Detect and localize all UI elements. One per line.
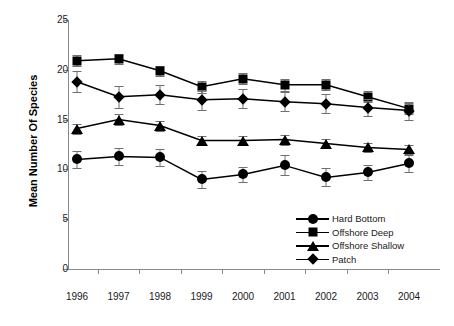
error-bar-cap: [363, 116, 372, 117]
legend-label: Patch: [329, 253, 356, 267]
error-bar-cap: [239, 182, 248, 183]
error-bar-cap: [322, 186, 331, 187]
error-bar-cap: [156, 76, 165, 77]
error-bar-cap: [73, 71, 82, 72]
error-bar-cap: [239, 84, 248, 85]
series-lines: [0, 0, 454, 326]
data-point-offshore-shallow: [403, 144, 415, 154]
data-point-hard-bottom: [321, 172, 331, 182]
legend-item-patch[interactable]: Patch: [296, 253, 404, 267]
error-bar-cap: [156, 166, 165, 167]
error-bar-cap: [280, 155, 289, 156]
error-bar-cap: [73, 92, 82, 93]
legend-label: Hard Bottom: [329, 212, 385, 226]
error-bar-cap: [363, 180, 372, 181]
error-bar-cap: [405, 120, 414, 121]
data-point-hard-bottom: [238, 169, 248, 179]
legend-label: Offshore Shallow: [329, 239, 404, 253]
error-bar-cap: [114, 125, 123, 126]
error-bar-cap: [322, 94, 331, 95]
data-point-offshore-deep: [280, 80, 289, 89]
data-point-offshore-shallow: [320, 139, 332, 149]
error-bar-cap: [197, 90, 206, 91]
data-point-offshore-deep: [322, 80, 331, 89]
error-bar-cap: [322, 113, 331, 114]
data-point-offshore-deep: [114, 54, 123, 63]
data-point-offshore-deep: [156, 66, 165, 75]
error-bar-cap: [405, 102, 414, 103]
error-bar-cap: [114, 108, 123, 109]
error-bar-cap: [239, 167, 248, 168]
data-point-offshore-shallow: [71, 124, 83, 134]
legend-diamond-icon: [296, 253, 329, 267]
error-bar-cap: [322, 148, 331, 149]
data-point-hard-bottom: [114, 151, 124, 161]
chart-container: Mean Number Of Species 0510152025 199619…: [0, 0, 454, 326]
data-point-hard-bottom: [155, 152, 165, 162]
error-bar-cap: [322, 168, 331, 169]
data-point-offshore-shallow: [113, 115, 125, 125]
chart-legend: Hard BottomOffshore DeepOffshore Shallow…: [296, 212, 404, 266]
error-bar-cap: [73, 66, 82, 67]
data-point-hard-bottom: [197, 174, 207, 184]
error-bar-cap: [156, 85, 165, 86]
series-layer: [0, 0, 454, 326]
legend-item-hard-bottom[interactable]: Hard Bottom: [296, 212, 404, 226]
data-point-hard-bottom: [404, 158, 414, 168]
error-bar-cap: [156, 104, 165, 105]
error-bar-cap: [114, 64, 123, 65]
data-point-offshore-shallow: [279, 135, 291, 145]
data-point-offshore-deep: [73, 56, 82, 65]
legend-item-offshore-shallow[interactable]: Offshore Shallow: [296, 239, 404, 253]
error-bar-cap: [197, 188, 206, 189]
error-bar-cap: [197, 171, 206, 172]
error-bar-cap: [73, 151, 82, 152]
error-bar-cap: [239, 89, 248, 90]
error-bar-cap: [197, 145, 206, 146]
error-bar-cap: [114, 148, 123, 149]
legend-triangle-icon: [296, 239, 329, 253]
error-bar-cap: [405, 154, 414, 155]
error-bar-cap: [405, 172, 414, 173]
error-bar-cap: [156, 149, 165, 150]
data-point-hard-bottom: [280, 160, 290, 170]
error-bar-cap: [239, 145, 248, 146]
data-point-offshore-shallow: [237, 136, 249, 146]
error-bar-cap: [156, 131, 165, 132]
error-bar-cap: [280, 175, 289, 176]
data-point-offshore-deep: [239, 74, 248, 83]
data-point-offshore-shallow: [196, 136, 208, 146]
error-bar-cap: [322, 90, 331, 91]
error-bar-cap: [280, 111, 289, 112]
error-bar-cap: [73, 134, 82, 135]
data-point-offshore-shallow: [154, 121, 166, 131]
data-point-hard-bottom: [72, 154, 82, 164]
error-bar-cap: [114, 86, 123, 87]
legend-label: Offshore Deep: [329, 226, 394, 240]
error-bar-cap: [280, 92, 289, 93]
error-bar-cap: [114, 165, 123, 166]
error-bar-cap: [197, 110, 206, 111]
legend-item-offshore-deep[interactable]: Offshore Deep: [296, 226, 404, 240]
legend-square-icon: [296, 226, 329, 240]
error-bar-cap: [363, 165, 372, 166]
error-bar-cap: [363, 99, 372, 100]
data-point-hard-bottom: [363, 167, 373, 177]
data-point-offshore-shallow: [362, 142, 374, 152]
error-bar-cap: [73, 168, 82, 169]
error-bar-cap: [239, 108, 248, 109]
error-bar-cap: [280, 145, 289, 146]
legend-circle-icon: [296, 212, 329, 226]
